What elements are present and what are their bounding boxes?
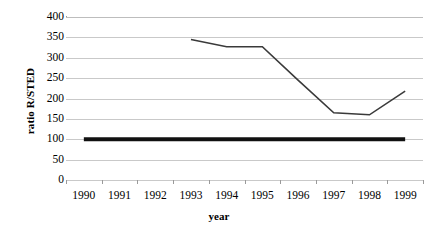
x-axis-title: year	[0, 210, 438, 222]
x-axis-tick-mark	[102, 180, 103, 184]
plot-area	[66, 17, 423, 180]
x-axis-tick-mark	[352, 180, 353, 184]
y-axis-tick-labels: 400350300250200150100500	[14, 0, 64, 243]
y-axis-tick-label: 200	[18, 93, 64, 105]
data-series-layer	[66, 17, 423, 180]
y-axis-tick-label: 400	[18, 11, 64, 23]
x-axis-tick-mark	[173, 180, 174, 184]
x-axis-tick-mark	[387, 180, 388, 184]
x-axis-tick-mark	[209, 180, 210, 184]
x-axis-tick-mark	[280, 180, 281, 184]
x-axis-tick-mark	[66, 180, 67, 184]
x-axis-tick-mark	[423, 180, 424, 184]
x-axis-tick-mark	[137, 180, 138, 184]
x-axis-tick-mark	[316, 180, 317, 184]
y-axis-tick-label: 300	[18, 52, 64, 64]
x-axis-tick-mark	[245, 180, 246, 184]
y-axis-tick-label: 50	[18, 154, 64, 166]
y-axis-tick-label: 350	[18, 31, 64, 43]
y-axis-tick-label: 150	[18, 113, 64, 125]
y-axis-tick-label: 100	[18, 133, 64, 145]
chart-container: ratio R/STED 400350300250200150100500 19…	[0, 0, 438, 243]
y-axis-tick-label: 250	[18, 72, 64, 84]
series-line	[191, 39, 405, 114]
x-axis-tick-label: 1999	[382, 189, 428, 201]
y-axis-tick-label: 0	[18, 174, 64, 186]
